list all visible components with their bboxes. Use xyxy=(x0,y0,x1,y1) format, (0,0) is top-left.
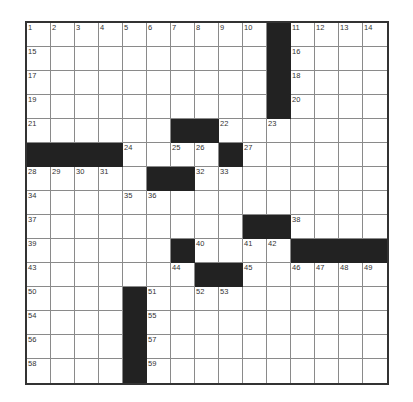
crossword-cell[interactable] xyxy=(243,191,267,215)
crossword-cell[interactable] xyxy=(363,359,387,383)
crossword-cell[interactable]: 31 xyxy=(99,167,123,191)
crossword-cell[interactable]: 36 xyxy=(147,191,171,215)
crossword-cell[interactable] xyxy=(291,143,315,167)
crossword-cell[interactable] xyxy=(339,71,363,95)
crossword-cell[interactable]: 57 xyxy=(147,335,171,359)
crossword-cell[interactable] xyxy=(219,215,243,239)
crossword-cell[interactable] xyxy=(75,287,99,311)
crossword-cell[interactable] xyxy=(171,287,195,311)
crossword-cell[interactable]: 10 xyxy=(243,23,267,47)
crossword-cell[interactable]: 9 xyxy=(219,23,243,47)
crossword-cell[interactable] xyxy=(243,167,267,191)
crossword-cell[interactable] xyxy=(195,95,219,119)
crossword-cell[interactable] xyxy=(243,359,267,383)
crossword-cell[interactable]: 3 xyxy=(75,23,99,47)
crossword-cell[interactable] xyxy=(147,239,171,263)
crossword-cell[interactable]: 5 xyxy=(123,23,147,47)
crossword-cell[interactable] xyxy=(195,71,219,95)
crossword-cell[interactable]: 47 xyxy=(315,263,339,287)
crossword-cell[interactable] xyxy=(171,335,195,359)
crossword-cell[interactable] xyxy=(51,215,75,239)
crossword-cell[interactable] xyxy=(339,143,363,167)
crossword-cell[interactable]: 2 xyxy=(51,23,75,47)
crossword-cell[interactable]: 41 xyxy=(243,239,267,263)
crossword-cell[interactable] xyxy=(219,47,243,71)
crossword-cell[interactable]: 20 xyxy=(291,95,315,119)
crossword-cell[interactable] xyxy=(219,95,243,119)
crossword-cell[interactable] xyxy=(99,47,123,71)
crossword-cell[interactable] xyxy=(363,119,387,143)
crossword-cell[interactable] xyxy=(219,311,243,335)
crossword-cell[interactable] xyxy=(51,263,75,287)
crossword-cell[interactable]: 25 xyxy=(171,143,195,167)
crossword-cell[interactable] xyxy=(243,335,267,359)
crossword-cell[interactable] xyxy=(339,335,363,359)
crossword-cell[interactable] xyxy=(147,95,171,119)
crossword-cell[interactable] xyxy=(99,71,123,95)
crossword-cell[interactable] xyxy=(75,47,99,71)
crossword-cell[interactable] xyxy=(51,239,75,263)
crossword-cell[interactable] xyxy=(339,215,363,239)
crossword-cell[interactable] xyxy=(147,119,171,143)
crossword-cell[interactable]: 39 xyxy=(27,239,51,263)
crossword-cell[interactable] xyxy=(363,287,387,311)
crossword-cell[interactable]: 27 xyxy=(243,143,267,167)
crossword-cell[interactable] xyxy=(291,191,315,215)
crossword-cell[interactable] xyxy=(123,167,147,191)
crossword-cell[interactable] xyxy=(315,47,339,71)
crossword-cell[interactable] xyxy=(99,311,123,335)
crossword-cell[interactable] xyxy=(315,359,339,383)
crossword-cell[interactable]: 19 xyxy=(27,95,51,119)
crossword-cell[interactable] xyxy=(75,263,99,287)
crossword-cell[interactable] xyxy=(195,311,219,335)
crossword-cell[interactable] xyxy=(363,311,387,335)
crossword-cell[interactable]: 12 xyxy=(315,23,339,47)
crossword-cell[interactable] xyxy=(339,359,363,383)
crossword-cell[interactable]: 48 xyxy=(339,263,363,287)
crossword-cell[interactable] xyxy=(75,95,99,119)
crossword-cell[interactable] xyxy=(219,335,243,359)
crossword-cell[interactable] xyxy=(123,95,147,119)
crossword-cell[interactable] xyxy=(243,95,267,119)
crossword-cell[interactable] xyxy=(99,95,123,119)
crossword-cell[interactable] xyxy=(291,311,315,335)
crossword-cell[interactable] xyxy=(123,119,147,143)
crossword-cell[interactable] xyxy=(195,359,219,383)
crossword-cell[interactable] xyxy=(75,215,99,239)
crossword-cell[interactable]: 15 xyxy=(27,47,51,71)
crossword-cell[interactable]: 29 xyxy=(51,167,75,191)
crossword-cell[interactable] xyxy=(51,71,75,95)
crossword-cell[interactable]: 44 xyxy=(171,263,195,287)
crossword-cell[interactable] xyxy=(267,335,291,359)
crossword-cell[interactable] xyxy=(51,47,75,71)
crossword-cell[interactable]: 26 xyxy=(195,143,219,167)
crossword-cell[interactable]: 43 xyxy=(27,263,51,287)
crossword-cell[interactable] xyxy=(123,263,147,287)
crossword-cell[interactable]: 14 xyxy=(363,23,387,47)
crossword-cell[interactable] xyxy=(51,335,75,359)
crossword-cell[interactable] xyxy=(75,191,99,215)
crossword-cell[interactable] xyxy=(75,335,99,359)
crossword-cell[interactable] xyxy=(315,287,339,311)
crossword-cell[interactable] xyxy=(219,239,243,263)
crossword-cell[interactable]: 55 xyxy=(147,311,171,335)
crossword-cell[interactable] xyxy=(339,47,363,71)
crossword-cell[interactable] xyxy=(267,191,291,215)
crossword-cell[interactable] xyxy=(147,47,171,71)
crossword-cell[interactable] xyxy=(339,119,363,143)
crossword-cell[interactable] xyxy=(339,95,363,119)
crossword-cell[interactable]: 38 xyxy=(291,215,315,239)
crossword-cell[interactable] xyxy=(363,167,387,191)
crossword-cell[interactable] xyxy=(315,335,339,359)
crossword-cell[interactable] xyxy=(243,47,267,71)
crossword-cell[interactable]: 37 xyxy=(27,215,51,239)
crossword-cell[interactable] xyxy=(339,311,363,335)
crossword-cell[interactable] xyxy=(291,335,315,359)
crossword-cell[interactable] xyxy=(243,119,267,143)
crossword-cell[interactable]: 11 xyxy=(291,23,315,47)
crossword-cell[interactable] xyxy=(315,143,339,167)
crossword-cell[interactable]: 4 xyxy=(99,23,123,47)
crossword-cell[interactable] xyxy=(195,191,219,215)
crossword-cell[interactable] xyxy=(147,215,171,239)
crossword-cell[interactable] xyxy=(51,95,75,119)
